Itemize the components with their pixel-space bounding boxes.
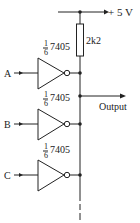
input-c-arrow-icon <box>19 173 23 177</box>
gate-a-fraction-num: 1 <box>44 39 48 48</box>
input-b-label: B <box>4 119 11 130</box>
input-c-label: C <box>4 170 11 181</box>
supply-rail: + 5 V <box>58 6 133 18</box>
pullup-resistor: 2k2 <box>77 12 102 56</box>
gate-b: 1 6 7405 B <box>4 90 82 140</box>
gate-c-fraction-num: 1 <box>44 142 48 151</box>
gate-b-fraction-num: 1 <box>44 90 48 99</box>
inverter-b-icon <box>38 109 64 140</box>
inverter-c-bubble-icon <box>64 172 69 177</box>
circuit-diagram: + 5 V 2k2 Output 1 6 7405 A 1 6 7405 B <box>0 0 140 223</box>
input-a-label: A <box>4 68 12 79</box>
gate-c-fraction-den: 6 <box>44 151 48 160</box>
supply-label: + 5 V <box>108 6 133 18</box>
resistor-label: 2k2 <box>86 35 101 46</box>
input-b-arrow-icon <box>19 122 23 126</box>
inverter-b-bubble-icon <box>64 121 69 126</box>
inverter-a-icon <box>38 58 64 89</box>
gate-a-part-number: 7405 <box>50 41 70 52</box>
gate-a: 1 6 7405 A <box>4 39 82 89</box>
gate-b-part-number: 7405 <box>50 92 70 103</box>
gate-c: 1 6 7405 C <box>4 142 82 191</box>
inverter-c-icon <box>38 160 64 191</box>
gate-c-part-number: 7405 <box>50 144 70 155</box>
output-label: Output <box>99 101 127 112</box>
gate-a-fraction-den: 6 <box>44 48 48 57</box>
inverter-a-bubble-icon <box>64 70 69 75</box>
gate-b-fraction-den: 6 <box>44 99 48 108</box>
output-bus: Output <box>78 56 127 220</box>
input-a-arrow-icon <box>19 71 23 75</box>
